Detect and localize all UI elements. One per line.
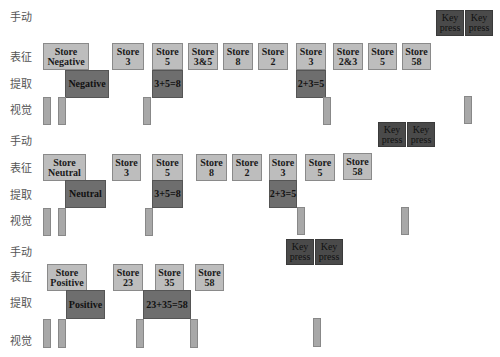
box-label: 3+5=8	[154, 79, 180, 89]
store-box: Store 5	[368, 43, 397, 70]
box-label: Store 35	[158, 268, 181, 288]
store-box: Store 58	[343, 153, 372, 180]
store-box: Store 5	[305, 154, 335, 181]
visual-bar	[136, 319, 144, 348]
retrieval-box: 2+3=5	[269, 180, 297, 208]
visual-bar	[43, 97, 51, 125]
store-box: Store Negative	[43, 43, 89, 70]
row-label-manual: 手动	[10, 8, 32, 24]
row-label-manual: 手动	[10, 243, 32, 259]
store-box: Store 58	[195, 264, 224, 291]
box-label: Store 2	[262, 47, 285, 67]
store-box: Store 8	[196, 154, 227, 181]
box-label: Store 3	[272, 158, 295, 178]
visual-bar	[297, 207, 305, 235]
store-box: Store 3&5	[188, 43, 218, 70]
store-box: Store 5	[152, 154, 183, 181]
key-press-box: Key press	[465, 10, 493, 36]
key-press-box: Key press	[315, 239, 343, 265]
store-box: Store 35	[155, 264, 184, 291]
key-press-box: Key press	[286, 239, 314, 265]
visual-bar	[58, 208, 66, 236]
key-press-box: Key press	[436, 10, 464, 36]
store-box: Store 2	[232, 154, 262, 181]
box-label: Store Positive	[50, 268, 83, 288]
box-label: Key press	[379, 125, 405, 145]
row-label-retrieval: 提取	[10, 75, 32, 91]
row-label-representation: 表征	[10, 268, 32, 284]
box-label: Store 5	[156, 158, 179, 178]
key-press-box: Key press	[378, 122, 406, 147]
box-label: Positive	[69, 300, 102, 310]
visual-bar	[401, 207, 409, 235]
retrieval-box: Positive	[66, 290, 105, 319]
retrieval-box: 3+5=8	[152, 180, 183, 208]
row-label-visual: 视觉	[10, 212, 32, 228]
box-label: Store 8	[200, 158, 223, 178]
retrieval-box: 3+5=8	[152, 70, 183, 98]
visual-bar	[58, 97, 66, 125]
box-label: Store 8	[227, 47, 250, 67]
box-label: Key press	[437, 13, 463, 33]
box-label: Store 3	[115, 158, 138, 178]
visual-bar	[58, 319, 66, 348]
box-label: 2+3=5	[270, 189, 296, 199]
row-label-visual: 视觉	[10, 101, 32, 117]
box-label: Key press	[316, 242, 342, 262]
store-box: Store 2	[258, 43, 288, 70]
box-label: Store 2	[236, 158, 259, 178]
box-label: Negative	[68, 79, 105, 89]
store-box: Store 3	[112, 43, 144, 70]
store-box: Store 23	[113, 264, 143, 291]
box-label: Key press	[287, 242, 313, 262]
box-label: 23+35=58	[146, 300, 187, 310]
visual-bar	[313, 318, 321, 347]
store-box: Store 5	[152, 43, 183, 70]
store-box: Store Neutral	[43, 154, 86, 181]
box-label: Store 2&3	[337, 47, 360, 67]
box-label: Store 3	[117, 47, 140, 67]
box-label: Store 58	[198, 268, 221, 288]
retrieval-box: Neutral	[65, 180, 106, 208]
row-label-visual: 视觉	[10, 332, 32, 348]
visual-bar	[323, 97, 331, 125]
box-label: Store 5	[156, 47, 179, 67]
retrieval-box: 2+3=5	[296, 70, 326, 98]
box-label: Store 3	[300, 47, 323, 67]
box-label: Store 3&5	[192, 47, 215, 67]
store-box: Store 2&3	[333, 43, 363, 70]
store-box: Store 3	[296, 43, 326, 70]
box-label: 2+3=5	[298, 79, 324, 89]
visual-bar	[145, 208, 153, 236]
visual-bar	[43, 319, 51, 348]
retrieval-box: Negative	[65, 70, 109, 98]
store-box: Store 58	[402, 43, 431, 70]
row-label-retrieval: 提取	[10, 294, 32, 310]
box-label: Store Neutral	[48, 158, 81, 178]
box-label: Key press	[408, 125, 434, 145]
visual-bar	[190, 319, 198, 348]
box-label: 3+5=8	[154, 189, 180, 199]
retrieval-box: 23+35=58	[143, 290, 191, 319]
box-label: Store 58	[405, 47, 428, 67]
store-box: Store 3	[269, 154, 297, 181]
box-label: Store 5	[371, 47, 394, 67]
box-label: Store 5	[309, 158, 332, 178]
row-label-representation: 表征	[10, 159, 32, 175]
visual-bar	[43, 208, 51, 236]
box-label: Neutral	[69, 189, 102, 199]
key-press-box: Key press	[407, 122, 435, 147]
store-box: Store Positive	[47, 264, 87, 291]
box-label: Key press	[466, 13, 492, 33]
store-box: Store 8	[223, 43, 253, 70]
row-label-representation: 表征	[10, 48, 32, 64]
row-label-retrieval: 提取	[10, 186, 32, 202]
box-label: Store 58	[346, 157, 369, 177]
box-label: Store 23	[117, 268, 140, 288]
store-box: Store 3	[112, 154, 141, 181]
visual-bar	[464, 96, 472, 124]
row-label-manual: 手动	[10, 132, 32, 148]
visual-bar	[143, 97, 151, 125]
box-label: Store Negative	[47, 47, 84, 67]
